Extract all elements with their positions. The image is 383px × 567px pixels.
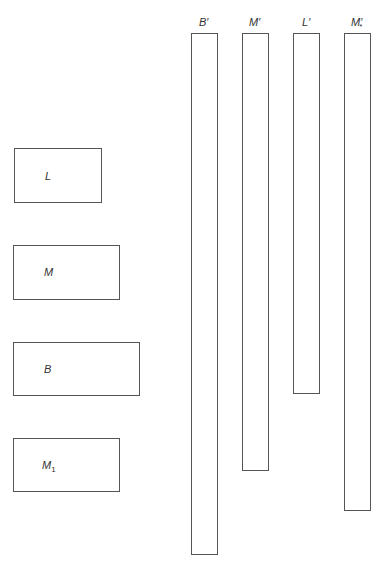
label-B-prime: B′ <box>199 17 208 28</box>
label-M1: M1 <box>42 460 56 474</box>
label-M1-subscript: 1 <box>51 465 55 474</box>
label-L-prime: L′ <box>302 17 310 28</box>
label-M-prime-star: M′* <box>351 17 362 31</box>
prime-mark: ′ <box>258 16 260 28</box>
label-B: B <box>44 364 51 375</box>
bar-L-prime <box>293 33 320 394</box>
prime-mark: ′ <box>308 16 310 28</box>
bar-M-prime <box>242 33 269 471</box>
label-M-prime: M′ <box>249 17 260 28</box>
box-B <box>13 342 140 396</box>
box-M1 <box>13 438 120 492</box>
label-L: L <box>45 171 51 182</box>
label-B-text: B <box>44 363 51 375</box>
label-L-text: L <box>45 170 51 182</box>
box-L <box>14 148 102 203</box>
label-M: M <box>44 267 53 278</box>
prime-mark: ′ <box>206 16 208 28</box>
star-subscript: * <box>359 22 362 31</box>
bar-M-prime-star <box>344 33 371 511</box>
label-M-text: M <box>44 266 53 278</box>
label-M1-text: M <box>42 459 51 471</box>
bar-B-prime <box>191 33 218 555</box>
box-M <box>13 245 120 300</box>
label-M-prime-text: M <box>249 16 258 28</box>
